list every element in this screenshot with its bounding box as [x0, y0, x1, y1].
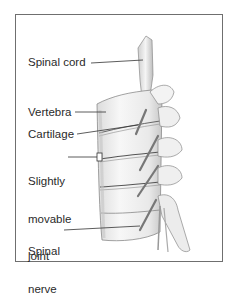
vertebral-bodies	[97, 90, 162, 241]
leader-spinal-cord	[91, 60, 143, 63]
spinal-cord-shape	[138, 36, 153, 98]
joint-marker	[97, 153, 102, 161]
label-spinal-nerve: Spinal nerve	[28, 220, 60, 297]
label-cartilage: Cartilage	[28, 128, 74, 140]
label-spinal-cord: Spinal cord	[28, 56, 86, 68]
label-nerve-line-1: Spinal	[28, 245, 60, 258]
label-vertebra: Vertebra	[28, 106, 71, 118]
label-nerve-line-2: nerve	[28, 283, 60, 296]
label-joint-line-1: Slightly	[28, 175, 71, 188]
